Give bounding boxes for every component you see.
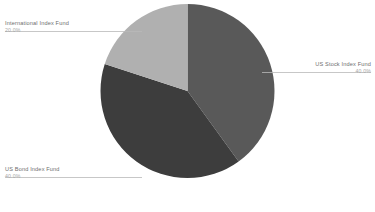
callout-us-bond-index-fund: US Bond Index Fund 40.0% bbox=[5, 166, 60, 180]
callout-value-us-stock-index-fund: 40.0% bbox=[315, 68, 371, 75]
callout-label-us-bond-index-fund: US Bond Index Fund bbox=[5, 166, 60, 173]
pie-slices bbox=[101, 4, 275, 178]
callout-value-international-index-fund: 20.0% bbox=[5, 27, 69, 34]
callout-value-us-bond-index-fund: 40.0% bbox=[5, 173, 60, 180]
callout-us-stock-index-fund: US Stock Index Fund 40.0% bbox=[315, 61, 371, 75]
pie-chart: International Index Fund 20.0% US Bond I… bbox=[0, 0, 375, 212]
callout-international-index-fund: International Index Fund 20.0% bbox=[5, 20, 69, 34]
callout-label-international-index-fund: International Index Fund bbox=[5, 20, 69, 27]
callout-label-us-stock-index-fund: US Stock Index Fund bbox=[315, 61, 371, 68]
